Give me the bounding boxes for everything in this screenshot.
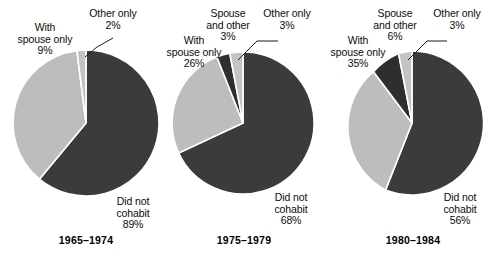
label-value: 9%: [4, 45, 86, 57]
label-value: 26%: [154, 58, 234, 70]
label-text: and other: [206, 19, 249, 31]
label-text: and other: [373, 19, 416, 31]
label-text: Other only: [433, 7, 480, 19]
label-text: Spouse: [377, 7, 412, 19]
pie-slices-1980-1984: [348, 51, 484, 195]
label-text: With: [35, 21, 56, 33]
label-did-not-cohabit: Did not cohabit 56%: [429, 192, 491, 227]
pie-slices-1965-1974: [13, 50, 159, 196]
panel-year-label: 1980–1984: [349, 234, 477, 246]
panel-year-label: 1965–1974: [22, 234, 150, 246]
label-other-only: Other only 3%: [421, 8, 493, 31]
label-other-only: Other only 3%: [252, 8, 322, 31]
label-text: spouse only: [331, 46, 386, 58]
label-value: 56%: [429, 215, 491, 227]
label-did-not-cohabit: Did not cohabit 89%: [102, 196, 164, 231]
label-value: 89%: [102, 219, 164, 231]
label-value: 6%: [357, 31, 433, 43]
label-text: spouse only: [167, 46, 222, 58]
label-text: Spouse: [210, 7, 245, 19]
label-text: Did not: [275, 191, 308, 203]
label-text: cohabit: [443, 203, 476, 215]
label-value: 35%: [317, 58, 399, 70]
label-text: Did not: [117, 195, 150, 207]
pie-chart-figure: With spouse only 9% Other only 2% Did no…: [0, 0, 497, 257]
label-text: Did not: [444, 191, 477, 203]
pie-panel-1980-1984: With spouse only 35% Spouse and other 6%…: [331, 0, 497, 257]
label-value: 3%: [421, 20, 493, 32]
pie-panel-1965-1974: With spouse only 9% Other only 2% Did no…: [0, 0, 166, 257]
pie-slices-1975-1979: [172, 52, 314, 194]
label-value: 3%: [190, 31, 266, 43]
label-value: 3%: [252, 20, 322, 32]
label-text: Other only: [89, 7, 136, 19]
label-text: cohabit: [116, 207, 149, 219]
label-value: 68%: [260, 215, 322, 227]
label-did-not-cohabit: Did not cohabit 68%: [260, 192, 322, 227]
label-other-only: Other only 2%: [74, 8, 152, 31]
label-text: spouse only: [18, 33, 73, 45]
pie-panel-1975-1979: With spouse only 26% Spouse and other 3%…: [166, 0, 331, 257]
label-value: 2%: [74, 20, 152, 32]
label-text: cohabit: [274, 203, 307, 215]
panel-year-label: 1975–1979: [180, 234, 308, 246]
label-text: Other only: [263, 7, 310, 19]
